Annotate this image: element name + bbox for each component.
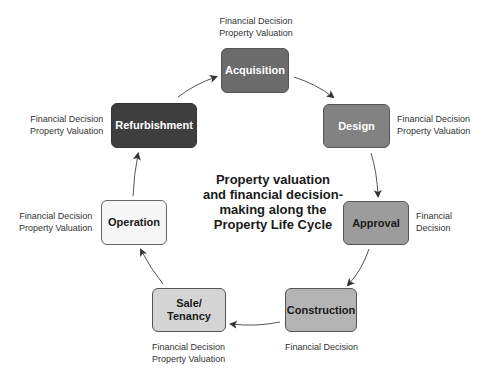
arrow-construction-to-sale: [231, 322, 280, 325]
notes-operation: Financial Decision Property Valuation: [19, 210, 92, 234]
stage-label-line2: Tenancy: [167, 310, 211, 323]
stage-refurbishment: Refurbishment: [111, 103, 197, 148]
stage-label: Construction: [287, 304, 355, 317]
notes-refurbishment: Financial Decision Property Valuation: [30, 113, 103, 137]
arrow-operation-to-refurbishment: [133, 154, 138, 196]
arrow-approval-to-construction: [348, 249, 369, 285]
arrow-design-to-approval: [371, 153, 378, 196]
arrow-sale-to-operation: [141, 250, 163, 284]
notes-sale-tenancy: Financial Decision Property Valuation: [152, 341, 225, 365]
stage-sale-tenancy: Sale/ Tenancy: [152, 288, 226, 332]
stage-design: Design: [323, 104, 390, 148]
stage-label: Design: [338, 120, 375, 133]
stage-construction: Construction: [285, 288, 357, 332]
stage-acquisition: Acquisition: [221, 48, 289, 93]
stage-label-line1: Sale/: [176, 297, 202, 310]
stage-label: Acquisition: [225, 64, 285, 77]
arrow-refurbishment-to-acquisition: [178, 77, 216, 97]
notes-acquisition: Financial Decision Property Valuation: [218, 15, 294, 39]
notes-construction: Financial Decision: [285, 341, 358, 353]
stage-label: Refurbishment: [115, 119, 193, 132]
arrow-acquisition-to-design: [294, 77, 333, 97]
notes-design: Financial Decision Property Valuation: [397, 113, 470, 137]
stage-operation: Operation: [101, 200, 167, 245]
stage-label: Approval: [352, 217, 400, 230]
property-life-cycle-diagram: Acquisition Financial Decision Property …: [0, 0, 497, 376]
stage-label: Operation: [108, 216, 160, 229]
diagram-center-title: Property valuation and financial decisio…: [190, 172, 356, 232]
notes-approval: Financial Decision: [416, 210, 452, 234]
